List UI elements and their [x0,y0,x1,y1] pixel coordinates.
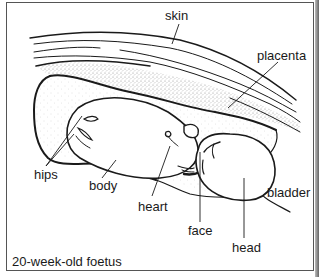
label-heart: heart [138,200,168,213]
label-skin: skin [165,9,188,22]
foetus-illustration [0,0,319,277]
label-head: head [232,241,261,254]
label-placenta: placenta [257,49,306,62]
label-bladder: bladder [267,186,310,199]
leader-placenta [228,62,278,108]
label-body: body [89,179,117,192]
leader-skin [172,24,179,44]
figure-caption: 20-week-old foetus [12,255,122,268]
label-hips: hips [34,168,58,181]
label-face: face [188,224,213,237]
